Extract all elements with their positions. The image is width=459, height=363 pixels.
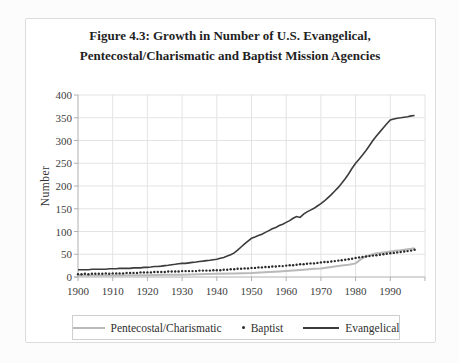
x-tick-label: 1990: [379, 285, 402, 297]
series-point-baptist: [393, 252, 395, 254]
series-point-baptist: [125, 272, 127, 274]
series-point-baptist: [143, 271, 145, 273]
series-point-baptist: [164, 271, 166, 273]
series-point-baptist: [268, 266, 270, 268]
series-point-baptist: [177, 270, 179, 272]
series-point-baptist: [236, 268, 238, 270]
pentecostal-line-swatch-icon: [73, 327, 105, 329]
series-point-baptist: [171, 270, 173, 272]
series-point-baptist: [396, 251, 398, 253]
series-point-baptist: [323, 261, 325, 263]
y-tick-label: 200: [56, 180, 73, 192]
series-point-baptist: [289, 264, 291, 266]
chart-legend: Pentecostal/Charismatic Baptist Evangeli…: [72, 315, 400, 340]
series-point-baptist: [278, 265, 280, 267]
series-point-baptist: [174, 270, 176, 272]
series-point-baptist: [77, 273, 79, 275]
x-tick-label: 1960: [275, 285, 298, 297]
series-point-baptist: [216, 269, 218, 271]
series-point-baptist: [386, 253, 388, 255]
series-point-baptist: [295, 264, 297, 266]
series-point-baptist: [188, 270, 190, 272]
y-tick-label: 400: [56, 89, 73, 101]
series-point-baptist: [261, 266, 263, 268]
series-point-baptist: [233, 268, 235, 270]
series-point-baptist: [230, 268, 232, 270]
series-point-baptist: [112, 272, 114, 274]
series-point-baptist: [275, 265, 277, 267]
series-point-baptist: [205, 269, 207, 271]
series-point-baptist: [139, 271, 141, 273]
series-line-evangelical: [78, 116, 415, 270]
series-point-baptist: [91, 273, 93, 275]
series-point-baptist: [375, 254, 377, 256]
series-point-baptist: [413, 249, 415, 251]
series-line-pentecostal-charismatic: [78, 248, 415, 275]
series-point-baptist: [150, 271, 152, 273]
series-point-baptist: [400, 251, 402, 253]
series-point-baptist: [282, 265, 284, 267]
series-point-baptist: [146, 271, 148, 273]
x-tick-label: 1920: [136, 285, 159, 297]
series-point-baptist: [136, 272, 138, 274]
x-tick-label: 1950: [241, 285, 264, 297]
y-tick-label: 100: [56, 226, 73, 238]
series-point-baptist: [368, 255, 370, 257]
series-point-baptist: [330, 260, 332, 262]
series-point-baptist: [247, 267, 249, 269]
series-point-baptist: [202, 269, 204, 271]
series-point-baptist: [87, 273, 89, 275]
series-point-baptist: [354, 257, 356, 259]
series-point-baptist: [191, 270, 193, 272]
series-point-baptist: [320, 261, 322, 263]
baptist-dot-swatch-icon: [242, 326, 245, 329]
series-point-baptist: [108, 273, 110, 275]
y-tick-label: 50: [61, 248, 73, 260]
series-point-baptist: [84, 273, 86, 275]
series-point-baptist: [372, 254, 374, 256]
series-point-baptist: [198, 269, 200, 271]
series-point-baptist: [379, 254, 381, 256]
legend-item-evangelical: Evangelical: [303, 322, 399, 334]
series-point-baptist: [250, 267, 252, 269]
series-point-baptist: [389, 252, 391, 254]
x-tick-label: 1970: [310, 285, 333, 297]
series-point-baptist: [94, 273, 96, 275]
series-point-baptist: [98, 273, 100, 275]
y-tick-label: 250: [56, 157, 73, 169]
series-point-baptist: [223, 269, 225, 271]
series-point-baptist: [209, 269, 211, 271]
series-point-baptist: [306, 263, 308, 265]
series-point-baptist: [327, 261, 329, 263]
x-tick-label: 1910: [102, 285, 125, 297]
series-point-baptist: [285, 264, 287, 266]
series-point-baptist: [132, 272, 134, 274]
series-point-baptist: [195, 270, 197, 272]
series-point-baptist: [341, 259, 343, 261]
series-point-baptist: [316, 262, 318, 264]
series-point-baptist: [115, 272, 117, 274]
series-point-baptist: [334, 260, 336, 262]
legend-label-evangelical: Evangelical: [345, 322, 399, 334]
series-point-baptist: [351, 258, 353, 260]
x-tick-label: 1900: [67, 285, 90, 297]
series-point-baptist: [365, 255, 367, 257]
series-point-baptist: [122, 272, 124, 274]
series-point-baptist: [157, 271, 159, 273]
series-point-baptist: [264, 266, 266, 268]
x-tick-label: 1980: [345, 285, 368, 297]
series-point-baptist: [292, 264, 294, 266]
y-tick-label: 300: [56, 135, 73, 147]
series-point-baptist: [181, 270, 183, 272]
chart-plot-area: 0501001502002503003504001900191019201930…: [0, 0, 459, 363]
legend-label-pentecostal: Pentecostal/Charismatic: [111, 322, 222, 334]
y-tick-label: 150: [56, 203, 73, 215]
series-point-baptist: [299, 263, 301, 265]
series-point-baptist: [410, 249, 412, 251]
series-point-baptist: [361, 256, 363, 258]
series-point-baptist: [302, 263, 304, 265]
series-point-baptist: [337, 259, 339, 261]
series-point-baptist: [257, 266, 259, 268]
series-point-baptist: [243, 267, 245, 269]
x-tick-label: 1930: [171, 285, 194, 297]
